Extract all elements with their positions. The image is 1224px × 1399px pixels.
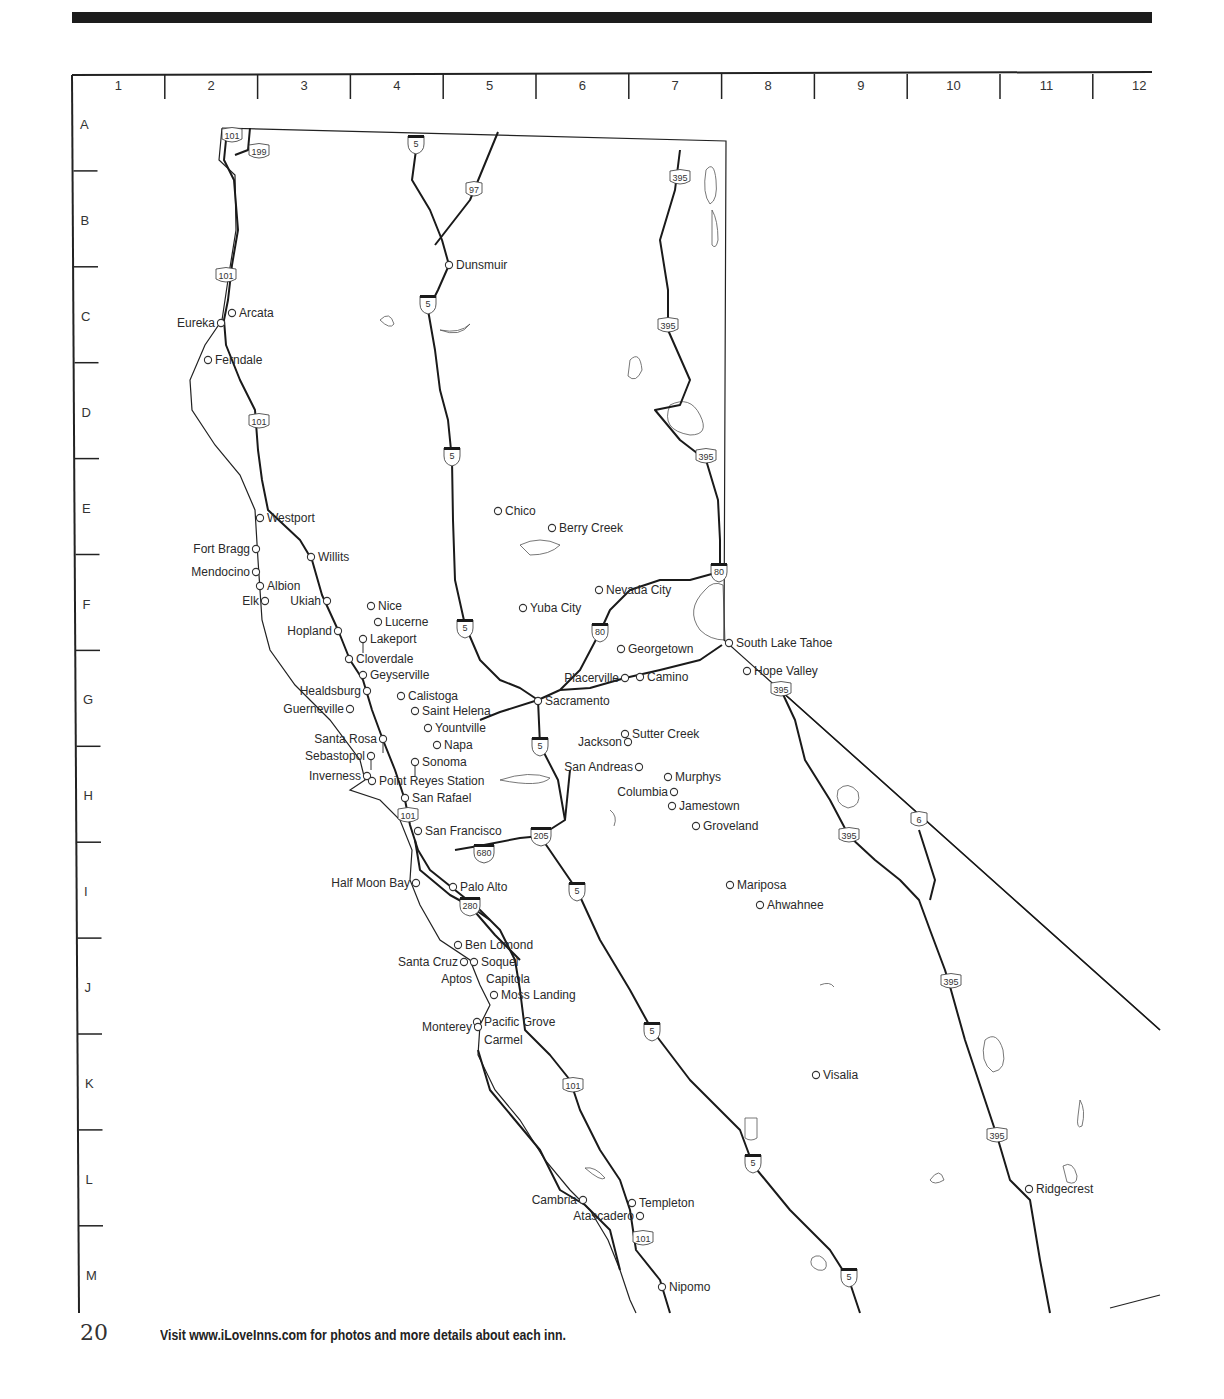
city-dot-icon [756,901,763,908]
city-marker[interactable]: Healdsburg [300,684,371,698]
city-marker[interactable]: Aptos [441,972,472,986]
city-marker[interactable]: Lucerne [374,615,428,629]
city-marker[interactable]: Sebastopol [305,749,375,770]
city-marker[interactable]: Pacific Grove [473,1015,555,1029]
row-label: H [84,788,93,803]
city-marker[interactable]: Chico [494,504,536,518]
city-marker[interactable]: Ferndale [204,353,262,367]
city-marker[interactable]: Nevada City [595,583,671,597]
city-marker[interactable]: Columbia [617,785,677,799]
city-marker[interactable]: Soquel [470,955,518,969]
city-label: Columbia [617,785,668,799]
city-marker[interactable]: Arcata [228,306,274,320]
city-marker[interactable]: Jamestown [668,799,739,813]
city-marker[interactable]: Murphys [664,770,721,784]
svg-text:101: 101 [400,811,415,821]
city-marker[interactable]: Ridgecrest [1025,1182,1094,1196]
city-marker[interactable]: Elk [242,594,268,608]
city-marker[interactable]: Atascadero [573,1209,643,1223]
city-marker[interactable]: Nipomo [658,1280,710,1294]
svg-text:395: 395 [773,685,788,695]
city-marker[interactable]: Guerneville [283,702,353,716]
column-label: 5 [486,78,493,93]
city-label: San Andreas [564,760,633,774]
city-markers: DunsmuirArcataEurekaFerndaleWestportChic… [177,258,1094,1294]
city-marker[interactable]: Fort Bragg [193,542,259,556]
city-label: Nevada City [606,583,671,597]
city-marker[interactable]: Visalia [812,1068,858,1082]
footer-link-text[interactable]: Visit www.iLoveInns.com for photos and m… [160,1326,566,1343]
row-label: G [83,692,93,707]
svg-text:101: 101 [635,1234,650,1244]
city-marker[interactable]: Sonoma [411,755,467,776]
city-marker[interactable]: San Rafael [401,791,471,805]
city-marker[interactable]: Dunsmuir [445,258,507,272]
city-marker[interactable]: Berry Creek [548,521,624,535]
city-marker[interactable]: South Lake Tahoe [725,636,832,650]
city-marker[interactable]: Sutter Creek [621,727,700,741]
city-marker[interactable]: Ahwahnee [756,898,824,912]
city-marker[interactable]: Groveland [692,819,758,833]
city-marker[interactable]: Yountville [424,721,486,735]
city-marker[interactable]: Mariposa [726,878,786,892]
city-marker[interactable]: Yuba City [519,601,581,615]
city-marker[interactable]: Willits [307,550,349,564]
city-label: Albion [267,579,300,593]
row-label: I [84,884,88,899]
city-dot-icon [636,673,643,680]
city-marker[interactable]: Santa Cruz [398,955,468,969]
city-marker[interactable]: Saint Helena [411,704,491,718]
city-dot-icon [323,597,330,604]
city-marker[interactable]: Carmel [484,1033,523,1047]
svg-text:5: 5 [649,1026,654,1036]
city-dot-icon [519,604,526,611]
interstate-shield-icon: 5 [420,295,436,314]
city-label: Ferndale [215,353,263,367]
city-label: Healdsburg [300,684,361,698]
city-marker[interactable]: Moss Landing [490,988,575,1002]
city-marker[interactable]: Placerville [564,671,628,685]
city-marker[interactable]: San Francisco [414,824,502,838]
city-marker[interactable]: Mendocino [191,565,259,579]
city-dot-icon [635,763,642,770]
city-marker[interactable]: Inverness [309,769,371,783]
city-marker[interactable]: Half Moon Bay [331,876,419,890]
city-dot-icon [411,758,418,765]
city-label: Sacramento [545,694,610,708]
city-marker[interactable]: Geyserville [359,668,429,682]
us-highway-shield-icon: 101 [563,1078,583,1093]
city-marker[interactable]: Westport [256,511,315,525]
city-marker[interactable]: Ukiah [290,594,330,608]
city-dot-icon [256,582,263,589]
us-highway-shield-icon: 395 [987,1128,1007,1143]
city-marker[interactable]: Sacramento [534,694,610,708]
row-label: C [81,309,90,324]
city-marker[interactable]: Cloverdale [345,652,413,666]
svg-text:5: 5 [846,1272,851,1282]
city-marker[interactable]: Calistoga [397,689,458,703]
city-marker[interactable]: Lakeport [359,632,417,653]
city-marker[interactable]: Point Reyes Station [368,774,484,788]
city-marker[interactable]: Eureka [177,316,225,330]
svg-text:395: 395 [672,173,687,183]
city-label: Nipomo [669,1280,711,1294]
city-marker[interactable]: Napa [433,738,473,752]
city-marker[interactable]: Hopland [287,624,341,638]
city-marker[interactable]: Ben Lomond [454,938,533,952]
city-marker[interactable]: Albion [256,579,300,593]
city-marker[interactable]: Monterey [422,1020,482,1034]
city-marker[interactable]: Camino [636,670,688,684]
city-marker[interactable]: Nice [367,599,402,613]
city-marker[interactable]: San Andreas [564,760,642,774]
us-highway-shield-icon: 395 [658,318,678,333]
city-marker[interactable]: Templeton [628,1196,694,1210]
city-label: Cloverdale [356,652,414,666]
city-label: Ahwahnee [767,898,824,912]
city-marker[interactable]: Capitola [486,972,530,986]
city-marker[interactable]: Georgetown [617,642,693,656]
page-number: 20 [80,1320,160,1345]
row-label: E [82,501,91,516]
city-dot-icon [307,553,314,560]
city-dot-icon [595,586,602,593]
city-marker[interactable]: Hope Valley [743,664,817,678]
